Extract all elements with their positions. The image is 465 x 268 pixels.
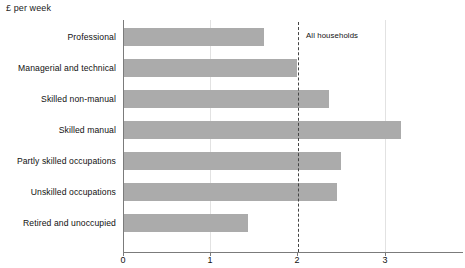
category-label-retired-and-unoccupied: Retired and unoccupied	[23, 218, 116, 228]
category-label-unskilled-occupations: Unskilled occupations	[31, 187, 116, 197]
x-tick-label-0: 0	[113, 255, 133, 265]
bar-unskilled-occupations	[124, 183, 337, 201]
category-label-skilled-non-manual: Skilled non-manual	[41, 94, 116, 104]
bar-professional	[124, 28, 264, 46]
x-axis-line	[123, 252, 463, 253]
all-households-reference-label: All households	[306, 31, 358, 40]
bar-partly-skilled-occupations	[124, 152, 341, 170]
x-tick-label-1: 1	[200, 255, 220, 265]
all-households-reference-line	[298, 22, 299, 252]
bar-managerial-and-technical	[124, 59, 297, 77]
bar-retired-and-unoccupied	[124, 214, 248, 232]
category-label-managerial-and-technical: Managerial and technical	[18, 63, 116, 73]
bar-skilled-manual	[124, 121, 401, 139]
bar-chart: £ per week Professional Managerial and t…	[0, 0, 465, 268]
x-tick-label-3: 3	[375, 255, 395, 265]
plot-area: Professional Managerial and technical Sk…	[0, 0, 465, 268]
x-tick-label-2: 2	[287, 255, 307, 265]
category-label-partly-skilled-occupations: Partly skilled occupations	[17, 156, 116, 166]
category-label-professional: Professional	[68, 32, 117, 42]
category-label-skilled-manual: Skilled manual	[59, 125, 116, 135]
